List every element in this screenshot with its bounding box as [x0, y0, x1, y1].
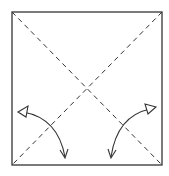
- fold-diagram: [0, 0, 169, 176]
- fold-diagram-canvas: [0, 0, 169, 176]
